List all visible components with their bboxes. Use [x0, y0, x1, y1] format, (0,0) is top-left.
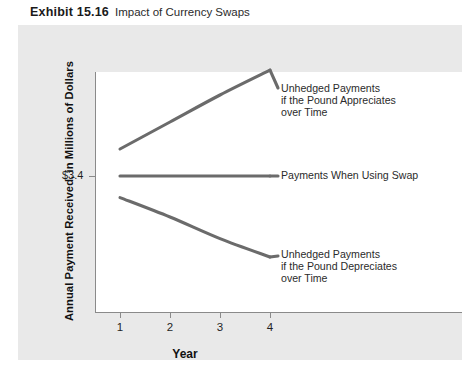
line-depreciate — [120, 198, 270, 257]
exhibit-figure: Exhibit 15.16 Impact of Currency Swaps $… — [0, 0, 471, 387]
line-appreciate — [120, 70, 270, 149]
annotation-appreciate: Unhedged Payments if the Pound Appreciat… — [281, 83, 396, 118]
leader-depreciate — [270, 256, 278, 257]
series-lines — [0, 0, 471, 387]
leader-appreciate — [270, 70, 278, 88]
annotation-swap: Payments When Using Swap — [281, 170, 418, 182]
annotation-depreciate: Unhedged Payments if the Pound Depreciat… — [281, 249, 397, 284]
